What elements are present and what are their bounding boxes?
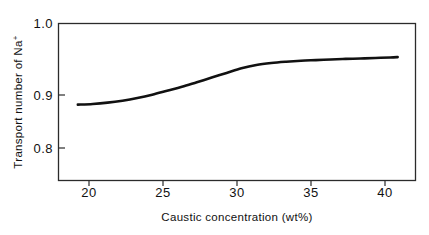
y-axis-ticks — [59, 95, 66, 148]
y-axis-title-text: Transport number of Na — [12, 40, 24, 169]
y-tick-label-1-0: 1.0 — [33, 16, 53, 31]
x-tick-label-35: 35 — [303, 185, 318, 200]
y-tick-label-0-8: 0.8 — [33, 141, 53, 156]
y-axis-title-superscript: + — [11, 35, 20, 40]
x-tick-label-20: 20 — [81, 185, 96, 200]
data-curve-line — [78, 57, 398, 105]
y-tick-label-0-9: 0.9 — [33, 88, 53, 103]
chart-figure: 20 25 30 35 40 1.0 0.9 0.8 Caustic conce… — [0, 0, 429, 235]
y-axis-title-group: Transport number of Na+ — [11, 35, 24, 168]
x-tick-label-25: 25 — [155, 185, 170, 200]
x-tick-label-30: 30 — [229, 185, 244, 200]
x-axis-title: Caustic concentration (wt%) — [161, 211, 312, 223]
chart-svg: 20 25 30 35 40 1.0 0.9 0.8 Caustic conce… — [0, 0, 429, 235]
y-axis-title: Transport number of Na+ — [11, 35, 24, 168]
x-tick-label-40: 40 — [377, 185, 392, 200]
